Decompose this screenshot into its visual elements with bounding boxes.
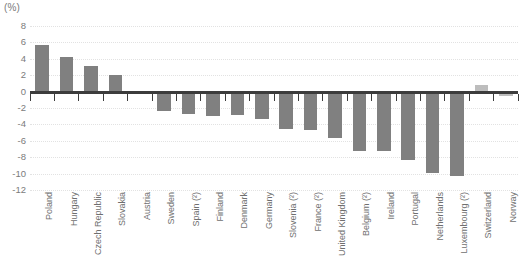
axis-tick <box>127 94 128 101</box>
axis-tick <box>347 94 348 101</box>
bar-column <box>152 26 176 190</box>
axis-tick <box>103 94 104 101</box>
x-axis-label-slot: Poland <box>30 192 54 262</box>
x-axis-category-label: Ireland <box>387 192 396 220</box>
bar <box>84 66 98 91</box>
bar <box>279 92 293 130</box>
x-axis-category-label: Denmark <box>240 192 249 229</box>
bar-column <box>347 26 371 190</box>
x-axis-label-slot: Austria <box>128 192 152 262</box>
x-axis-label-slot: Norway <box>494 192 518 262</box>
x-axis-label-slot: Slovakia <box>103 192 127 262</box>
x-axis-category-label: Finland <box>216 192 225 222</box>
x-axis-label-slot: Spain (²) <box>176 192 200 262</box>
axis-tick <box>298 94 299 101</box>
bar-column <box>176 26 200 190</box>
x-axis-category-label: Hungary <box>70 192 79 226</box>
axis-tick <box>152 94 153 101</box>
x-axis-label-slot: Hungary <box>54 192 78 262</box>
axis-tick <box>78 94 79 101</box>
axis-tick <box>322 94 323 101</box>
x-axis-category-label: Czech Republic <box>94 192 103 255</box>
y-axis-tick-label: -12 <box>12 185 26 195</box>
bar-column <box>396 26 420 190</box>
y-axis-unit-label: (%) <box>4 2 20 13</box>
axis-tick <box>420 94 421 101</box>
x-axis-category-label: Slovakia <box>118 192 127 226</box>
x-axis-category-label: Sweden <box>167 192 176 225</box>
axis-tick <box>249 94 250 101</box>
x-axis-label-slot: Ireland <box>372 192 396 262</box>
x-axis-category-label: Belgium (²) <box>362 192 371 236</box>
bar-column <box>103 26 127 190</box>
x-axis-category-label: Germany <box>265 192 274 229</box>
y-axis-tick-label: -6 <box>18 136 26 146</box>
bar <box>231 92 245 116</box>
x-axis-label-slot: Finland <box>201 192 225 262</box>
axis-tick <box>444 94 445 101</box>
plot-area <box>30 26 518 190</box>
x-axis-label-slot: Netherlands <box>420 192 444 262</box>
bar <box>328 92 342 139</box>
bar-chart: (%) 86420-2-4-6-8-10-12 PolandHungaryCze… <box>0 0 522 262</box>
axis-tick <box>274 94 275 101</box>
y-axis-tick-label: -4 <box>18 119 26 129</box>
bar-column <box>420 26 444 190</box>
bar-column <box>79 26 103 190</box>
bar-column <box>250 26 274 190</box>
x-axis-category-labels: PolandHungaryCzech RepublicSlovakiaAustr… <box>30 192 518 262</box>
bar <box>206 92 220 117</box>
y-axis-tick-labels: 86420-2-4-6-8-10-12 <box>0 26 26 190</box>
x-axis-label-slot: Czech Republic <box>79 192 103 262</box>
bar-column <box>128 26 152 190</box>
bar-column <box>274 26 298 190</box>
bar <box>182 92 196 114</box>
x-axis-label-slot: Slovenia (²) <box>274 192 298 262</box>
x-axis-label-slot: Sweden <box>152 192 176 262</box>
y-axis-tick-label: 6 <box>21 37 26 47</box>
bar-column <box>201 26 225 190</box>
x-axis-label-slot: France (²) <box>298 192 322 262</box>
bar-column <box>298 26 322 190</box>
bar <box>304 92 318 131</box>
y-axis-tick-label: -10 <box>12 169 26 179</box>
bar <box>426 92 440 173</box>
bar <box>377 92 391 152</box>
x-axis-category-label: France (²) <box>314 192 323 232</box>
axis-tick <box>176 94 177 101</box>
bar-column <box>494 26 518 190</box>
bar <box>353 92 367 151</box>
x-axis-category-label: Poland <box>45 192 54 220</box>
x-axis-category-label: Spain (²) <box>192 192 201 227</box>
bar <box>450 92 464 176</box>
x-axis-category-label: Netherlands <box>436 192 445 241</box>
axis-tick <box>200 94 201 101</box>
bar <box>401 92 415 161</box>
bar-column <box>323 26 347 190</box>
axis-tick <box>469 94 470 101</box>
y-axis-tick-label: -2 <box>18 103 26 113</box>
axis-tick <box>54 94 55 101</box>
x-axis-category-label: Switzerland <box>484 192 493 239</box>
axis-tick <box>371 94 372 101</box>
y-axis-tick-label: 2 <box>21 70 26 80</box>
x-axis-category-label: Norway <box>509 192 518 223</box>
axis-tick <box>493 94 494 101</box>
x-axis-category-label: Portugal <box>411 192 420 226</box>
x-axis-category-label: Luxembourg (²) <box>460 192 469 254</box>
bar-column <box>469 26 493 190</box>
x-axis-label-slot: Luxembourg (²) <box>445 192 469 262</box>
bar-column <box>30 26 54 190</box>
x-axis-label-slot: Germany <box>250 192 274 262</box>
bar-column <box>445 26 469 190</box>
y-axis-tick-label: 8 <box>21 21 26 31</box>
bar-column <box>225 26 249 190</box>
bar <box>157 92 171 112</box>
bar-column <box>372 26 396 190</box>
x-axis-label-slot: Switzerland <box>469 192 493 262</box>
x-axis-label-slot: Denmark <box>225 192 249 262</box>
bar-column <box>54 26 78 190</box>
axis-tick <box>225 94 226 101</box>
axis-tick <box>518 94 519 101</box>
bar <box>109 75 123 91</box>
